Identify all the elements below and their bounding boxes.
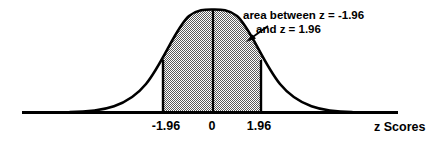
tick-label-negative-1-96: -1.96 bbox=[152, 119, 181, 133]
tick-label-positive-1-96: 1.96 bbox=[247, 119, 271, 133]
normal-distribution-figure: area between z = -1.96 and z = 1.96 -1.9… bbox=[0, 0, 445, 149]
annotation-line-2: and z = 1.96 bbox=[256, 23, 321, 35]
x-axis-label: z Scores bbox=[374, 120, 425, 134]
tick-label-zero: 0 bbox=[209, 119, 216, 133]
annotation-line-1: area between z = -1.96 bbox=[243, 9, 364, 21]
